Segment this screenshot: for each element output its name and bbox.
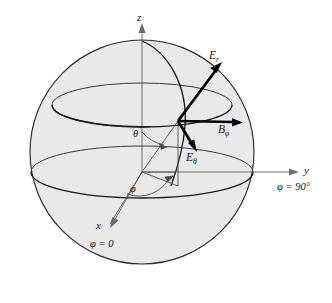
E-r-vector-label: Er <box>209 50 219 64</box>
B-phi-base: B <box>218 123 225 135</box>
phi-angle-label: φ <box>130 184 136 195</box>
E-theta-base: E <box>186 151 193 163</box>
B-phi-subscript: φ <box>225 129 229 138</box>
phi-0-annotation: φ = 0 <box>90 239 113 250</box>
theta-angle-label: θ <box>133 129 138 140</box>
E-r-subscript: r <box>216 55 219 64</box>
E-theta-vector-label: Eθ <box>186 152 197 166</box>
z-axis-label: z <box>137 12 141 23</box>
E-theta-subscript: θ <box>193 157 197 166</box>
y-axis-label: y <box>304 165 309 176</box>
spherical-coordinate-diagram: z y x θ φ Er Bφ Eθ φ = 90° φ = 0 <box>0 0 332 303</box>
diagram-canvas <box>0 0 332 303</box>
B-phi-vector-label: Bφ <box>218 124 229 138</box>
x-axis-label: x <box>96 220 101 231</box>
phi-90-annotation: φ = 90° <box>277 182 310 193</box>
E-r-base: E <box>209 49 216 61</box>
